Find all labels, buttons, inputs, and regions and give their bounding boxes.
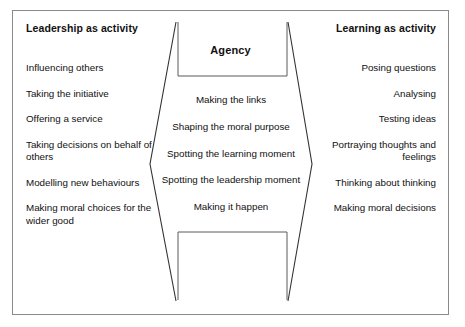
leadership-item-4: Modelling new behaviours — [26, 177, 154, 190]
agency-item-3: Spotting the leadership moment — [140, 174, 322, 186]
agency-item-2: Spotting the learning moment — [140, 148, 322, 160]
leadership-column-header: Leadership as activity — [26, 22, 154, 35]
agency-item-0: Making the links — [140, 94, 322, 106]
learning-column: Learning as activity Posing questions An… — [306, 22, 436, 215]
agency-item-1: Shaping the moral purpose — [140, 121, 322, 133]
leadership-item-1: Taking the initiative — [26, 88, 154, 101]
learning-item-2: Testing ideas — [306, 113, 436, 126]
learning-item-1: Analysing — [306, 88, 436, 101]
leadership-column: Leadership as activity Influencing other… — [26, 22, 154, 227]
learning-item-5: Making moral decisions — [306, 202, 436, 215]
leadership-item-0: Influencing others — [26, 62, 154, 75]
leadership-item-2: Offering a service — [26, 113, 154, 126]
learning-column-header: Learning as activity — [306, 22, 436, 35]
agency-item-4: Making it happen — [140, 201, 322, 213]
agency-item-list: Making the links Shaping the moral purpo… — [140, 94, 322, 213]
diagram-root: Leadership as activity Influencing other… — [0, 0, 465, 327]
leadership-item-5: Making moral choices for the wider good — [26, 202, 154, 227]
agency-title: Agency — [149, 44, 312, 56]
learning-item-4: Thinking about thinking — [306, 177, 436, 190]
learning-item-0: Posing questions — [306, 62, 436, 75]
leadership-item-3: Taking decisions on behalf of others — [26, 139, 154, 164]
learning-item-3: Portraying thoughts and feelings — [306, 139, 436, 164]
